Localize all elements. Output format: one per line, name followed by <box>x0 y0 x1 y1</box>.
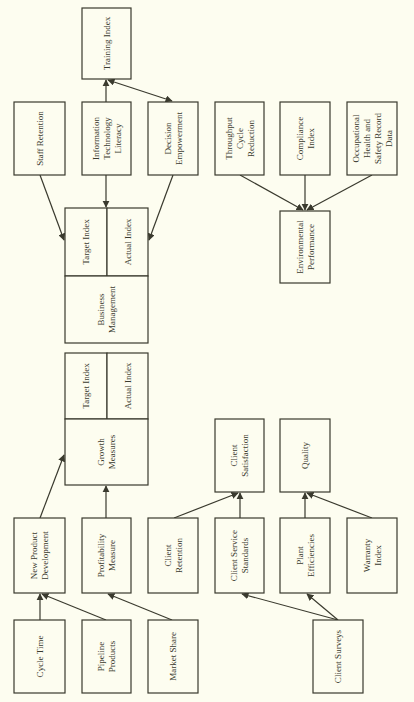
node-cycle-time: Cycle Time <box>14 620 65 693</box>
node-pipeline-products: PipelineProducts <box>82 620 131 693</box>
node-client-satisfaction: ClientSatisfaction <box>215 419 264 492</box>
arrow-staff_retention-to-bm_target_index <box>40 175 64 240</box>
node-label: GrowthMeasures <box>96 434 117 469</box>
balanced-scorecard-diagram: Training IndexStaff RetentionInformation… <box>0 0 414 702</box>
arrow-training_index-to-decision_empowerment <box>108 80 172 101</box>
node-training-index: Training Index <box>82 8 131 79</box>
arrow-decision_empowerment-to-bm_actual_index <box>149 175 173 240</box>
node-compliance-index: ComplianceIndex <box>280 102 330 175</box>
node-label: Training Index <box>102 16 112 70</box>
node-label: PipelineProducts <box>96 640 117 672</box>
arrow-pipeline_products-to-new_product_development <box>42 594 106 620</box>
diagram-nodes: Training IndexStaff RetentionInformation… <box>14 8 397 693</box>
node-label: Actual Index <box>123 362 133 409</box>
arrow-ohs_record_data-to-environmental_performance <box>307 175 372 210</box>
node-label: Actual Index <box>123 218 133 265</box>
arrow-new_product_development-to-growth_measures <box>40 455 64 518</box>
node-label: New ProductDevelopment <box>29 531 50 580</box>
node-new-product-development: New ProductDevelopment <box>14 518 65 593</box>
node-client-surveys: Client Surveys <box>313 620 363 693</box>
node-environmental-performance: EnvironmentalPerformance <box>280 211 330 283</box>
arrow-warranty_index-to-quality <box>307 493 372 518</box>
node-client-retention: ClientRetention <box>148 518 198 593</box>
node-growth-measures: GrowthMeasures <box>65 419 148 485</box>
node-profitability-measure: ProfitabilityMeasure <box>82 518 131 593</box>
arrow-client_surveys-to-client_service_standards <box>242 594 338 620</box>
arrow-market_share-to-profitability_measure <box>108 594 172 620</box>
node-label: Staff Retention <box>35 111 45 166</box>
node-label: Client Surveys <box>333 629 343 683</box>
node-staff-retention: Staff Retention <box>14 102 65 175</box>
node-label: Target Index <box>81 363 91 409</box>
node-market-share: Market Share <box>148 620 198 693</box>
node-label: Market Share <box>168 632 178 681</box>
node-warranty-index: WarrantyIndex <box>347 518 397 593</box>
node-plant-efficiencies: PlantEfficiencies <box>280 518 330 593</box>
node-label: EnvironmentalPerformance <box>295 220 316 274</box>
node-label: Target Index <box>81 219 91 265</box>
node-it-literacy: InformationTechnologyLiteracy <box>82 102 131 175</box>
arrow-throughput_cycle_reduction-to-environmental_performance <box>240 175 303 210</box>
node-gm-actual-index: Actual Index <box>107 353 148 419</box>
node-throughput-cycle-reduction: ThroughputCycleReduction <box>215 102 264 175</box>
node-business-management: BusinessManagement <box>65 276 148 343</box>
node-bm-target-index: Target Index <box>65 208 107 276</box>
node-quality: Quality <box>280 419 330 492</box>
node-label: Cycle Time <box>35 636 45 678</box>
arrow-client_retention-to-client_satisfaction <box>174 493 238 518</box>
node-decision-empowerment: DecisionEmpowerment <box>148 102 198 175</box>
node-label: Quality <box>300 442 310 469</box>
node-gm-target-index: Target Index <box>65 353 107 419</box>
node-client-service-standards: Client ServiceStandards <box>215 518 264 593</box>
node-bm-actual-index: Actual Index <box>107 208 148 276</box>
node-ohs-record-data: OccupationalHealth andSafety RecordData <box>347 102 397 175</box>
